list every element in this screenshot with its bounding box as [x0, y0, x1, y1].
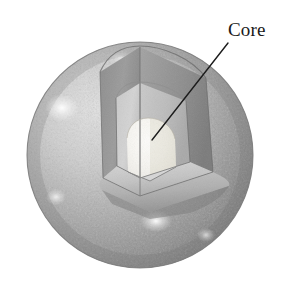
- figure-root: Core: [0, 0, 296, 285]
- planet-interior-diagram: [0, 0, 296, 285]
- core-callout-label: Core: [228, 20, 266, 39]
- interior-halftone: [88, 44, 218, 220]
- specular-lower-right: [197, 228, 215, 242]
- specular-upper-left: [45, 94, 79, 122]
- specular-left-lower: [46, 189, 66, 205]
